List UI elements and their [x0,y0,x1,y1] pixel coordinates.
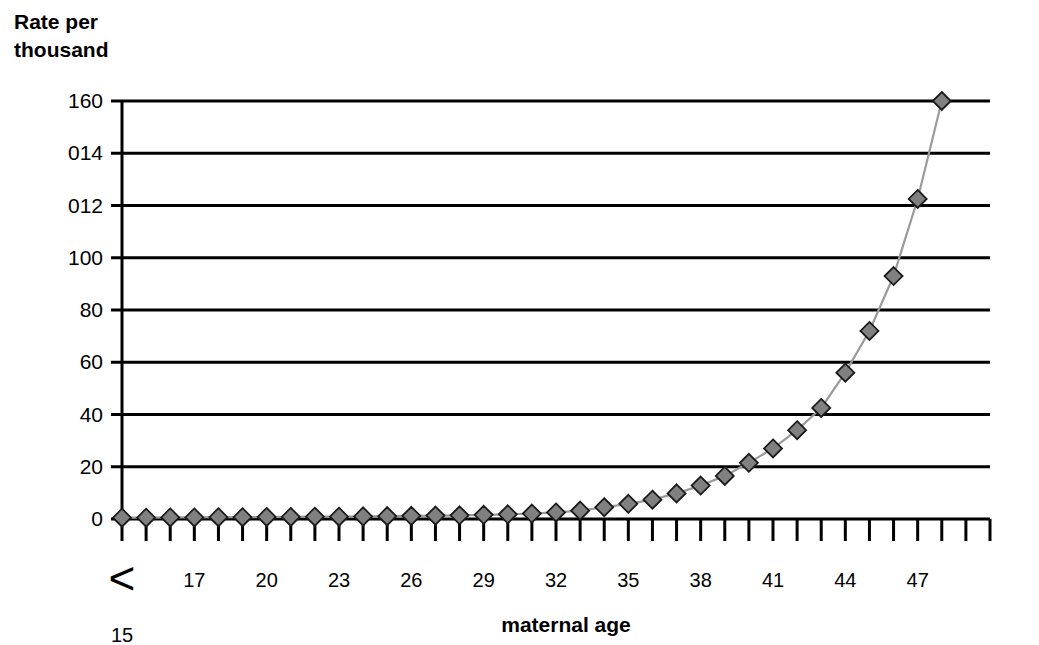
data-point-marker [258,508,276,526]
y-axis-tick-marks-group [111,101,122,519]
data-point-marker [185,508,203,526]
data-point-marker [113,509,131,527]
x-axis-tick-label-less-than-icon: < [92,555,152,601]
x-axis-tick-label: 20 [237,570,297,590]
data-point-marker [885,267,903,285]
data-point-marker [836,364,854,382]
data-point-marker [860,322,878,340]
x-axis-tick-label: 35 [598,570,658,590]
data-point-marker [161,508,179,526]
x-axis-tick-label: 29 [454,570,514,590]
y-axis-tick-label: 014 [41,142,103,163]
data-point-marker [619,495,637,513]
data-point-marker [499,505,517,523]
data-point-marker [740,454,758,472]
x-axis-tick-label: 17 [164,570,224,590]
data-point-marker [426,507,444,525]
x-axis-tick-label: 32 [526,570,586,590]
data-point-marker [209,508,227,526]
data-point-marker [306,508,324,526]
x-axis-tick-label: 44 [815,570,875,590]
data-point-marker [402,507,420,525]
x-axis-tick-label-less-than-number: 15 [92,625,152,645]
data-point-marker [716,467,734,485]
y-axis-tick-label: 160 [41,90,103,111]
data-point-marker [668,484,686,502]
x-axis-tick-label: 26 [381,570,441,590]
data-point-marker [692,477,710,495]
y-axis-tick-label: 80 [41,299,103,320]
gridlines-group [122,101,990,467]
data-point-marker [378,507,396,525]
x-axis-tick-label: 41 [743,570,803,590]
y-axis-tick-label: 012 [41,195,103,216]
y-axis-tick-label: 60 [41,351,103,372]
y-axis-tick-label: 40 [41,404,103,425]
x-axis-tick-label: 23 [309,570,369,590]
y-axis-tick-label: 20 [41,456,103,477]
data-point-marker [354,507,372,525]
data-point-marker [330,508,348,526]
data-point-marker [137,509,155,527]
x-axis-title: maternal age [416,613,716,637]
plot-area [0,0,1039,645]
data-point-marker [475,506,493,524]
chart-root: Rate perthousand 160014012100806040200 <… [0,0,1039,645]
data-point-marker [643,491,661,509]
data-point-marker [764,439,782,457]
data-point-marker [234,508,252,526]
x-axis-tick-label: 47 [888,570,948,590]
y-axis-tick-label: 0 [41,508,103,529]
y-axis-tick-label: 100 [41,247,103,268]
data-point-marker [595,498,613,516]
data-point-marker [571,502,589,520]
data-point-marker [451,506,469,524]
data-point-marker [282,508,300,526]
data-point-marker [933,92,951,110]
x-axis-tick-label: 38 [671,570,731,590]
